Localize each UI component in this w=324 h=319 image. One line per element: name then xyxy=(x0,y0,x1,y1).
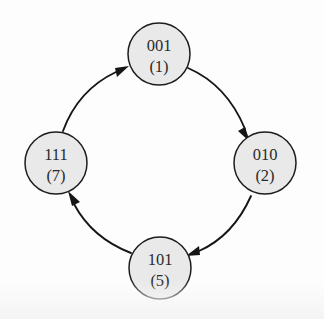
state-diagram-canvas: 001 (1) 010 (2) 101 (5) 111 (7) xyxy=(0,0,324,319)
edge-101-to-111-arrowhead xyxy=(68,191,80,206)
state-node-001[interactable]: 001 (1) xyxy=(128,23,190,85)
edge-111-to-001[interactable] xyxy=(63,66,129,131)
state-node-010[interactable]: 010 (2) xyxy=(234,132,296,194)
edge-group xyxy=(63,66,251,256)
state-node-010-decimal: (2) xyxy=(255,166,274,185)
state-node-010-code: 010 xyxy=(253,145,278,164)
node-group: 001 (1) 010 (2) 101 (5) 111 (7) xyxy=(25,23,296,299)
diagram-page: 001 (1) 010 (2) 101 (5) 111 (7) xyxy=(0,0,324,319)
state-node-111-code: 111 xyxy=(44,145,68,164)
edge-010-to-101[interactable] xyxy=(186,196,251,256)
state-node-111[interactable]: 111 (7) xyxy=(25,132,87,194)
edge-101-to-111-path xyxy=(74,204,131,253)
state-node-001-decimal: (1) xyxy=(149,57,168,76)
edge-001-to-010-path xyxy=(188,68,245,129)
edge-111-to-001-path xyxy=(63,72,116,131)
edge-111-to-001-arrowhead xyxy=(115,66,129,77)
edge-001-to-010[interactable] xyxy=(188,68,250,142)
state-node-001-code: 001 xyxy=(147,36,172,55)
edge-010-to-101-path xyxy=(199,196,251,251)
state-node-101-decimal: (5) xyxy=(150,271,169,290)
state-node-101[interactable]: 101 (5) xyxy=(129,237,191,299)
edge-101-to-111[interactable] xyxy=(68,191,131,253)
state-node-111-decimal: (7) xyxy=(46,166,65,185)
state-node-101-code: 101 xyxy=(148,250,173,269)
